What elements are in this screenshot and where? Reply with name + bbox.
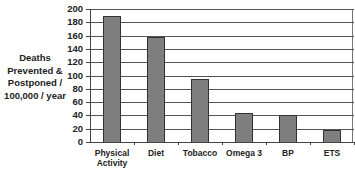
y-tick-label: 160 — [56, 31, 83, 41]
x-tick — [222, 142, 223, 145]
x-tick — [266, 142, 267, 145]
x-category-label: ETS — [307, 148, 355, 158]
gridline — [90, 89, 354, 90]
bar — [191, 79, 209, 143]
x-category-label-line: Physical — [87, 148, 137, 158]
x-axis-line — [86, 142, 354, 143]
y-tick-label: 100 — [56, 71, 83, 81]
x-category-label-line: Omega 3 — [219, 148, 269, 158]
gridline — [90, 76, 354, 77]
x-tick — [178, 142, 179, 145]
gridline — [90, 9, 354, 10]
gridline — [90, 22, 354, 23]
x-category-label-line: BP — [263, 148, 313, 158]
gridline — [90, 102, 354, 103]
x-category-label: Tobacco — [175, 148, 225, 158]
x-category-label: Omega 3 — [219, 148, 269, 158]
bar — [279, 115, 297, 143]
x-tick — [134, 142, 135, 145]
gridline — [90, 129, 354, 130]
gridline — [90, 115, 354, 116]
x-category-label-line: ETS — [307, 148, 355, 158]
x-category-label: Diet — [131, 148, 181, 158]
y-tick-label: 40 — [56, 110, 83, 120]
x-category-label: PhysicalActivity — [87, 148, 137, 168]
y-axis-line — [90, 9, 91, 143]
bar — [147, 37, 165, 143]
bar — [235, 113, 253, 143]
y-tick-label: 0 — [56, 137, 83, 147]
gridline — [90, 49, 354, 50]
gridline — [90, 62, 354, 63]
x-tick — [310, 142, 311, 145]
gridline — [90, 36, 354, 37]
x-category-label-line: Diet — [131, 148, 181, 158]
x-category-label: BP — [263, 148, 313, 158]
y-tick-label: 140 — [56, 44, 83, 54]
y-tick-label: 200 — [56, 4, 83, 14]
y-tick-label: 20 — [56, 124, 83, 134]
y-tick-label: 180 — [56, 17, 83, 27]
x-category-label-line: Activity — [87, 158, 137, 168]
y-tick-label: 80 — [56, 84, 83, 94]
y-tick-label: 60 — [56, 97, 83, 107]
y-tick-label: 120 — [56, 57, 83, 67]
bar — [103, 16, 121, 143]
x-category-label-line: Tobacco — [175, 148, 225, 158]
